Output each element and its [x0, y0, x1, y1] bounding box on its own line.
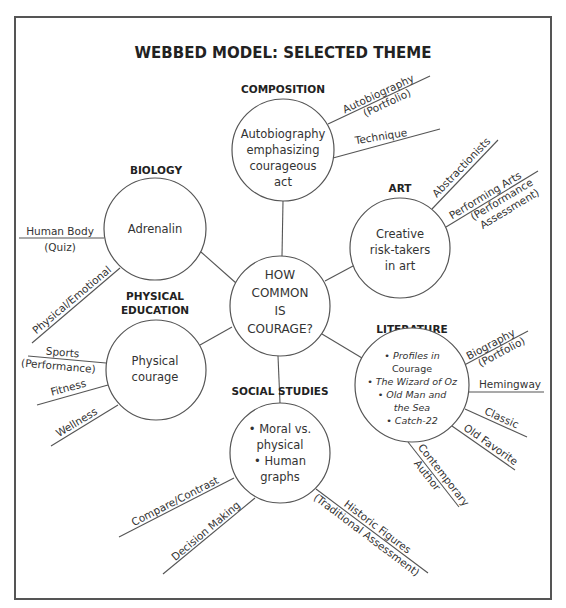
svg-text:HOW: HOW — [265, 268, 295, 282]
svg-text:act: act — [274, 175, 292, 189]
svg-text:COURAGE?: COURAGE? — [247, 322, 313, 336]
svg-text:PHYSICAL: PHYSICAL — [126, 290, 184, 302]
svg-text:COMMON: COMMON — [252, 286, 309, 300]
svg-text:IS: IS — [274, 304, 285, 318]
svg-text:courageous: courageous — [249, 159, 316, 173]
svg-text:Compare/Contrast: Compare/Contrast — [129, 474, 220, 528]
svg-text:• Moral vs.: • Moral vs. — [249, 422, 311, 436]
spoke-pe-wellness: Wellness — [54, 405, 100, 439]
center-node: HOW COMMON IS COURAGE? — [230, 256, 330, 356]
svg-text:Creative: Creative — [376, 227, 424, 241]
svg-text:Technique: Technique — [353, 126, 408, 146]
diagram-title: WEBBED MODEL: SELECTED THEME — [135, 44, 432, 62]
svg-text:Adrenalin: Adrenalin — [128, 222, 183, 236]
spoke-biology-human-body: Human Body (Quiz) — [26, 225, 94, 253]
connector-physical-education — [200, 327, 232, 345]
svg-text:Physical/Emotional: Physical/Emotional — [30, 263, 114, 336]
spoke-social-historic-figures: Historic Figures (Traditional Assessment… — [312, 481, 430, 579]
svg-text:• Human: • Human — [254, 454, 306, 468]
spoke-social-decision-making: Decision Making — [169, 498, 242, 562]
svg-text:BIOLOGY: BIOLOGY — [130, 164, 182, 176]
svg-text:Autobiography: Autobiography — [241, 127, 326, 141]
svg-text:Classic: Classic — [483, 405, 521, 431]
art-node: ART Creative risk-takers in art Abstract… — [350, 135, 541, 298]
svg-text:physical: physical — [256, 438, 303, 452]
connector-composition — [282, 201, 283, 256]
svg-text:Human Body: Human Body — [26, 225, 94, 237]
connector-literature — [322, 334, 362, 358]
spoke-literature-classic: Classic — [483, 405, 521, 431]
spoke-art-performing-arts: Performing Arts (Performance Assessment) — [447, 165, 541, 241]
spoke-social-compare-contrast: Compare/Contrast — [129, 474, 220, 528]
spoke-composition-technique: Technique — [353, 126, 408, 146]
svg-text:Courage: Courage — [392, 363, 432, 374]
svg-text:EDUCATION: EDUCATION — [121, 304, 189, 316]
svg-text:SOCIAL STUDIES: SOCIAL STUDIES — [231, 385, 328, 397]
svg-text:• Catch-22: • Catch-22 — [386, 415, 438, 426]
svg-text:Fitness: Fitness — [49, 377, 87, 398]
svg-text:in art: in art — [385, 259, 416, 273]
spoke-pe-fitness: Fitness — [49, 377, 87, 398]
svg-text:risk-takers: risk-takers — [370, 243, 430, 257]
svg-text:(Traditional Assessment): (Traditional Assessment) — [312, 491, 422, 578]
svg-text:Hemingway: Hemingway — [479, 378, 541, 390]
svg-text:the Sea: the Sea — [394, 402, 430, 413]
spoke-biology-physical-emotional: Physical/Emotional — [30, 263, 114, 336]
spoke-composition-autobiography: Autobiography (Portfolio) — [341, 72, 421, 126]
svg-text:ART: ART — [389, 182, 413, 194]
connector-art — [325, 266, 353, 281]
svg-text:Decision Making: Decision Making — [169, 498, 242, 562]
svg-text:• Profiles in: • Profiles in — [384, 350, 439, 361]
composition-heading: COMPOSITION — [241, 83, 325, 95]
svg-text:Physical: Physical — [132, 354, 179, 368]
svg-text:graphs: graphs — [260, 470, 300, 484]
svg-text:(Performance): (Performance) — [21, 356, 96, 374]
svg-text:• Old Man and: • Old Man and — [378, 389, 448, 400]
svg-text:emphasizing: emphasizing — [247, 143, 320, 157]
connector-biology — [201, 252, 236, 283]
svg-text:(Quiz): (Quiz) — [44, 241, 76, 253]
spoke-literature-hemingway: Hemingway — [479, 378, 541, 390]
spoke-literature-biography: Biography (Portfolio) — [464, 324, 527, 373]
webbed-model-diagram: WEBBED MODEL: SELECTED THEME — [0, 0, 566, 608]
svg-text:Wellness: Wellness — [54, 405, 100, 439]
svg-text:Sports: Sports — [45, 345, 80, 360]
literature-node: LITERATURE • Profiles in Courage • The W… — [355, 323, 541, 516]
svg-text:• The Wizard of Oz: • The Wizard of Oz — [367, 376, 458, 387]
svg-text:courage: courage — [132, 370, 179, 384]
